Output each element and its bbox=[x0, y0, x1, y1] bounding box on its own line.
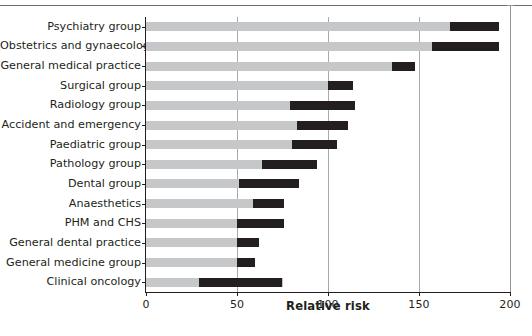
relative-risk-bar-chart: Psychiatry groupObstetrics and gynaecolo… bbox=[0, 0, 532, 336]
x-gridline bbox=[419, 17, 420, 292]
category-label: Clinical oncology bbox=[0, 276, 141, 287]
bar-highlight bbox=[450, 22, 499, 31]
category-label: General dental practice bbox=[0, 237, 141, 248]
bar-highlight bbox=[297, 121, 348, 130]
category-label: General medicine group bbox=[0, 257, 141, 268]
bar-total bbox=[146, 62, 415, 71]
x-axis-tick bbox=[328, 292, 329, 296]
category-label: Surgical group bbox=[0, 80, 141, 91]
bar-highlight bbox=[290, 101, 356, 110]
bar-highlight bbox=[237, 219, 284, 228]
bar-highlight bbox=[262, 160, 317, 169]
x-axis-tick bbox=[146, 292, 147, 296]
x-axis-tick bbox=[510, 292, 511, 296]
bar-total bbox=[146, 81, 353, 90]
x-gridline bbox=[237, 17, 238, 292]
bar-highlight bbox=[237, 258, 255, 267]
bar-highlight bbox=[239, 179, 299, 188]
bar-highlight bbox=[253, 199, 284, 208]
category-label: Paediatric group bbox=[0, 139, 141, 150]
bar-total bbox=[146, 22, 499, 31]
category-label: Pathology group bbox=[0, 158, 141, 169]
bar-highlight bbox=[328, 81, 353, 90]
right-frame-tick bbox=[507, 5, 514, 6]
x-axis-tick bbox=[419, 292, 420, 296]
category-label: Radiology group bbox=[0, 99, 141, 110]
y-axis-line bbox=[145, 17, 146, 292]
plot-area: 050100150200 bbox=[146, 17, 510, 292]
x-axis-tick bbox=[237, 292, 238, 296]
x-axis-title: Relative risk bbox=[146, 299, 510, 313]
category-label: General medical practice bbox=[0, 60, 141, 71]
category-label: Psychiatry group bbox=[0, 21, 141, 32]
category-label: Dental group bbox=[0, 178, 141, 189]
bar-highlight bbox=[292, 140, 338, 149]
top-divider-rule bbox=[0, 5, 532, 6]
bar-highlight bbox=[432, 42, 499, 51]
category-label: Anaesthetics bbox=[0, 198, 141, 209]
bar-highlight bbox=[392, 62, 416, 71]
bar-highlight bbox=[199, 278, 283, 287]
category-label: Accident and emergency bbox=[0, 119, 141, 130]
x-gridline bbox=[328, 17, 329, 292]
category-label: PHM and CHS bbox=[0, 217, 141, 228]
category-axis-labels: Psychiatry groupObstetrics and gynaecolo… bbox=[0, 17, 141, 292]
category-label: Obstetrics and gynaecology bbox=[0, 40, 141, 51]
bar-highlight bbox=[237, 238, 259, 247]
right-frame-line bbox=[510, 5, 511, 292]
